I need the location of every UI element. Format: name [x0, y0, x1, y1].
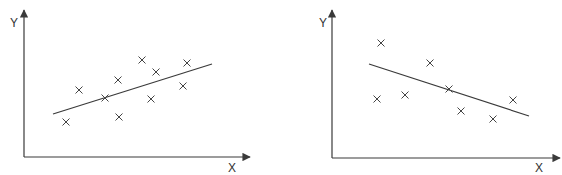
x-marker-icon: [76, 87, 83, 94]
x-marker-icon: [184, 60, 191, 67]
negative-correlation-chart: Y X: [319, 10, 560, 175]
x-marker-icon: [490, 116, 497, 123]
y-axis-label: Y: [10, 16, 18, 30]
positive-correlation-chart: Y X: [10, 10, 250, 175]
trend-line: [53, 64, 212, 114]
x-marker-icon: [116, 114, 123, 121]
trend-line: [369, 64, 529, 116]
x-marker-icon: [402, 92, 409, 99]
x-marker-icon: [378, 40, 385, 47]
x-marker-icon: [180, 83, 187, 90]
x-marker-icon: [139, 57, 146, 64]
x-marker-icon: [374, 96, 381, 103]
scatter-plots: Y X Y X: [0, 0, 562, 175]
x-marker-icon: [148, 96, 155, 103]
x-marker-icon: [427, 60, 434, 67]
x-marker-icon: [63, 119, 70, 126]
x-marker-icon: [115, 77, 122, 84]
x-axis-label: X: [535, 161, 543, 175]
x-axis-label: X: [228, 161, 236, 175]
x-marker-icon: [153, 69, 160, 76]
y-axis-label: Y: [319, 16, 327, 30]
data-points: [374, 40, 517, 123]
x-marker-icon: [458, 108, 465, 115]
x-marker-icon: [510, 97, 517, 104]
